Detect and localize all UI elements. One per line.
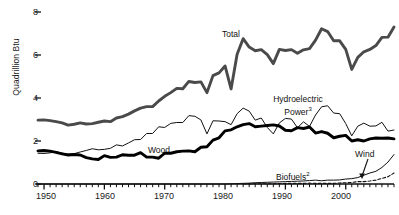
- chart-figure: Quadrillion Btu 8 6 4 2 0 1950 1960 1970…: [0, 0, 399, 215]
- chart-axes: [35, 12, 394, 190]
- series-line-hydroelectric-power: [38, 106, 394, 154]
- chart-plot-area: [0, 0, 399, 215]
- series-line-total: [38, 27, 394, 125]
- wind-callout-arrow: [359, 159, 368, 179]
- series-line-wood: [38, 124, 394, 160]
- chart-series-group: [38, 27, 394, 184]
